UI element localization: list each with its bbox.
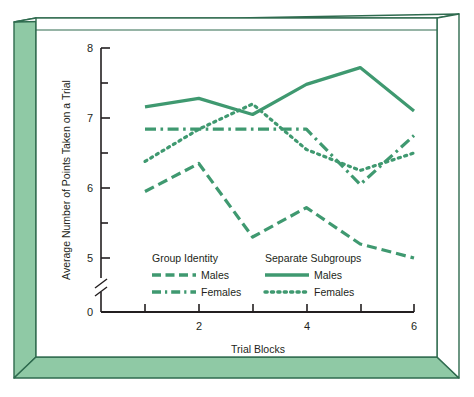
y-axis-title: Average Number of Points Taken on a Tria… bbox=[60, 80, 72, 280]
frame-right-edge bbox=[437, 14, 459, 378]
legend-label-separate-subgroups-females: Females bbox=[314, 286, 354, 298]
y-tick-label-6: 6 bbox=[87, 182, 93, 194]
x-tick-label-6: 6 bbox=[411, 320, 417, 332]
legend-label-group-identity-males: Males bbox=[201, 269, 229, 281]
x-axis-title: Trial Blocks bbox=[231, 343, 285, 355]
y-tick-label-7: 7 bbox=[87, 112, 93, 124]
legend-label-separate-subgroups-males: Males bbox=[314, 269, 342, 281]
legend-label-group-identity-females: Females bbox=[201, 286, 241, 298]
y-tick-label-8: 8 bbox=[87, 42, 93, 54]
three-d-frame bbox=[14, 14, 459, 378]
figure-container: 8 7 6 5 0 2 4 6 Trial Blocks Average Num… bbox=[0, 0, 474, 397]
legend-heading-group-identity: Group Identity bbox=[152, 252, 219, 264]
frame-left-panel bbox=[14, 18, 36, 378]
x-tick-label-2: 2 bbox=[196, 320, 202, 332]
frame-inner-face bbox=[36, 18, 437, 357]
frame-bottom-panel bbox=[14, 357, 459, 378]
y-tick-label-0: 0 bbox=[87, 306, 93, 318]
line-chart-figure: 8 7 6 5 0 2 4 6 Trial Blocks Average Num… bbox=[0, 0, 474, 397]
legend-heading-separate-subgroups: Separate Subgroups bbox=[265, 252, 361, 264]
x-tick-label-4: 4 bbox=[304, 320, 310, 332]
y-tick-label-5: 5 bbox=[87, 252, 93, 264]
